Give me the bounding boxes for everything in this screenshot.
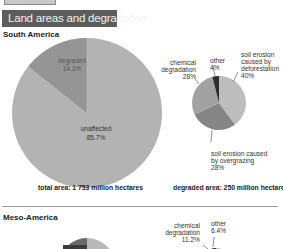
- meso-other-pct: 6.4%: [211, 227, 226, 234]
- meso-america-degradation-pie: [0, 0, 283, 249]
- meso-chemical-pct: 11.2%: [160, 236, 200, 243]
